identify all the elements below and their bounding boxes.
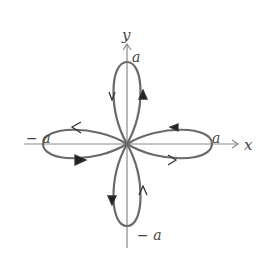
x-axis-label: x: [244, 136, 253, 154]
tick-label-bottom: − a: [137, 227, 162, 243]
arrow-left-icon: [72, 122, 81, 133]
tick-label-top: a: [132, 49, 140, 65]
arrow-right-filled-icon: [75, 155, 86, 165]
tick-label-right: a: [212, 130, 220, 146]
y-axis-label: y: [121, 26, 131, 44]
rose-curve-diagram: y x a a − a − a: [0, 0, 266, 258]
tick-label-left: − a: [26, 130, 51, 146]
arrow-right-icon: [168, 155, 176, 165]
